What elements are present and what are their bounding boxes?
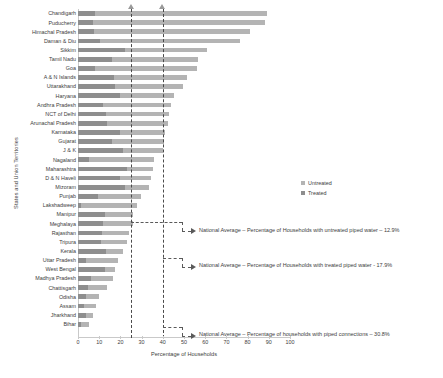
bar-row (78, 276, 290, 281)
x-tick-label: 40 (153, 339, 173, 345)
annotation-untreated: National Average – Percentage of Househo… (199, 227, 435, 234)
bar-segment-treated (78, 29, 94, 34)
category-label: Chattisgarh (2, 285, 76, 291)
legend-item-treated: Treated (301, 190, 332, 196)
bar-row (78, 112, 290, 117)
bar-segment-treated (78, 194, 98, 199)
category-label: Mizoram (2, 184, 76, 190)
category-label: D & N Haveli (2, 175, 76, 181)
bar-segment-untreated (89, 157, 155, 162)
category-label: Chandigarh (2, 10, 76, 16)
bar-row (78, 75, 290, 80)
bar-row (78, 39, 290, 44)
bar-segment-treated (78, 121, 107, 126)
bar-segment-treated (78, 212, 105, 217)
bar-segment-treated (78, 267, 105, 272)
bar-row (78, 294, 290, 299)
bar-segment-untreated (114, 75, 187, 80)
bar-segment-treated (78, 240, 101, 245)
bar-segment-treated (78, 93, 120, 98)
category-label: Daman & Diu (2, 38, 76, 44)
bar-segment-untreated (107, 121, 168, 126)
category-label: Sikkim (2, 47, 76, 53)
bar-row (78, 157, 290, 162)
bar-segment-untreated (115, 84, 183, 89)
plot-area (78, 9, 290, 338)
category-label: Odisha (2, 294, 76, 300)
bar-segment-untreated (105, 212, 134, 217)
bar-segment-untreated (98, 194, 140, 199)
bar-row (78, 20, 290, 25)
bar-row (78, 167, 290, 172)
category-label: Maharashtra (2, 166, 76, 172)
category-label: NCT of Delhi (2, 111, 76, 117)
bar-segment-treated (78, 313, 86, 318)
bar-segment-untreated (105, 267, 116, 272)
bar-segment-untreated (84, 304, 96, 309)
bar-segment-untreated (101, 240, 126, 245)
bar-segment-untreated (95, 66, 197, 71)
category-label: Uttarakhand (2, 83, 76, 89)
category-label: Madhya Pradesh (2, 275, 76, 281)
category-label: Nagaland (2, 157, 76, 163)
bar-row (78, 121, 290, 126)
category-label: Manipur (2, 211, 76, 217)
bar-segment-untreated (81, 322, 88, 327)
bar-row (78, 57, 290, 62)
x-tick-label: 70 (216, 339, 236, 345)
bar-segment-treated (78, 276, 91, 281)
category-label: Karnataka (2, 129, 76, 135)
bar-segment-treated (78, 130, 120, 135)
bar-segment-treated (78, 66, 95, 71)
annotation-piped: National Average – Percentage of househo… (199, 331, 437, 338)
x-tick-label: 90 (259, 339, 279, 345)
category-label: Tamil Nadu (2, 56, 76, 62)
bar-segment-untreated (95, 11, 267, 16)
chart-legend: Untreated Treated (301, 180, 332, 200)
bar-row (78, 313, 290, 318)
category-label: Punjab (2, 193, 76, 199)
category-label: Rajasthan (2, 230, 76, 236)
reference-line-2 (163, 9, 164, 338)
bar-row (78, 212, 290, 217)
bar-row (78, 93, 290, 98)
bar-segment-untreated (103, 221, 133, 226)
bar-segment-treated (78, 231, 102, 236)
bar-segment-treated (78, 157, 89, 162)
bar-segment-untreated (112, 139, 164, 144)
bar-segment-untreated (94, 29, 250, 34)
bar-row (78, 66, 290, 71)
bar-segment-treated (78, 11, 95, 16)
reference-line-marker-2 (159, 4, 165, 9)
annotation-treated: National Average – Percentage of Househo… (199, 262, 425, 269)
legend-swatch-untreated-icon (301, 181, 305, 185)
category-label: Andhra Pradesh (2, 102, 76, 108)
bar-segment-untreated (123, 148, 163, 153)
x-tick-label: 0 (68, 339, 88, 345)
category-label: Uttar Pradesh (2, 257, 76, 263)
x-tick-label: 50 (174, 339, 194, 345)
bar-row (78, 221, 290, 226)
bar-segment-untreated (120, 93, 174, 98)
x-tick-label: 20 (110, 339, 130, 345)
bar-segment-treated (78, 258, 86, 263)
category-label: West Bengal (2, 266, 76, 272)
x-tick-label: 60 (195, 339, 215, 345)
bar-segment-untreated (112, 57, 198, 62)
bar-segment-treated (78, 176, 120, 181)
bar-row (78, 322, 290, 327)
bar-segment-untreated (106, 112, 170, 117)
bar-row (78, 84, 290, 89)
bar-segment-treated (78, 75, 114, 80)
bar-segment-treated (78, 139, 112, 144)
bar-segment-untreated (120, 176, 151, 181)
bar-segment-untreated (91, 276, 113, 281)
bar-segment-treated (78, 20, 93, 25)
legend-label-treated: Treated (308, 190, 326, 196)
bar-segment-untreated (125, 48, 208, 53)
bar-segment-treated (78, 57, 112, 62)
bar-segment-treated (78, 221, 103, 226)
bar-segment-untreated (102, 231, 129, 236)
category-label: J & K (2, 147, 76, 153)
bar-segment-untreated (81, 203, 137, 208)
